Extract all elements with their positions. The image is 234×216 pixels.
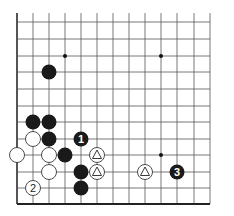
black-stone: [42, 65, 57, 80]
white-stone: [90, 165, 105, 180]
black-stone: 1: [74, 132, 89, 147]
white-stone: [42, 148, 57, 163]
white-stone: [10, 148, 25, 163]
white-stone: 2: [26, 181, 41, 196]
white-stone: [26, 132, 41, 147]
black-stone: [42, 115, 57, 130]
move-number-label: 3: [174, 166, 180, 178]
star-point: [159, 54, 163, 58]
white-stone: [90, 148, 105, 163]
white-stone: [42, 165, 57, 180]
black-stone: [26, 115, 41, 130]
black-stone: [42, 132, 57, 147]
move-number-label: 2: [30, 182, 36, 194]
move-number-label: 1: [78, 133, 84, 145]
star-point: [159, 153, 163, 157]
go-board: 132: [0, 0, 234, 216]
star-point: [63, 54, 67, 58]
white-stone: [138, 165, 153, 180]
black-stone: [74, 165, 89, 180]
black-stone: [74, 181, 89, 196]
black-stone: 3: [170, 165, 185, 180]
black-stone: [58, 148, 73, 163]
